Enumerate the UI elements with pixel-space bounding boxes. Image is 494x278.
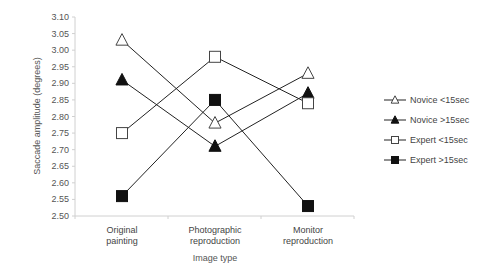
y-tick-label: 3.00 bbox=[51, 45, 69, 55]
x-category-label: Monitor bbox=[293, 225, 323, 235]
filled-triangle-marker bbox=[209, 140, 221, 152]
filled-triangle-marker bbox=[302, 87, 314, 99]
open-square-marker bbox=[210, 51, 221, 62]
y-tick-label: 2.90 bbox=[51, 78, 69, 88]
legend-item: Novice <15sec bbox=[384, 95, 470, 105]
filled-square-marker bbox=[392, 157, 399, 164]
y-tick-label: 2.75 bbox=[51, 128, 69, 138]
legend-item: Expert >15sec bbox=[384, 155, 468, 165]
x-category-label: painting bbox=[106, 236, 138, 246]
y-tick-label: 2.55 bbox=[51, 194, 69, 204]
x-category-label: Photographic bbox=[188, 225, 242, 235]
y-axis: 3.103.053.002.952.902.852.802.752.702.65… bbox=[51, 12, 75, 221]
filled-square-marker bbox=[117, 191, 128, 202]
x-axis-title: Image type bbox=[193, 253, 238, 263]
open-triangle-marker bbox=[391, 96, 399, 103]
legend-label: Expert >15sec bbox=[410, 155, 468, 165]
y-tick-label: 2.50 bbox=[51, 211, 69, 221]
y-tick-label: 2.65 bbox=[51, 161, 69, 171]
series-markers bbox=[117, 94, 314, 211]
x-category-label: reproduction bbox=[190, 236, 240, 246]
series-novice-15sec bbox=[122, 80, 308, 146]
y-tick-label: 2.70 bbox=[51, 145, 69, 155]
y-tick-label: 2.60 bbox=[51, 178, 69, 188]
open-square-marker bbox=[392, 137, 399, 144]
open-triangle-marker bbox=[116, 34, 128, 46]
series-markers bbox=[116, 73, 314, 151]
legend-label: Novice <15sec bbox=[410, 95, 470, 105]
legend-label: Expert <15sec bbox=[410, 135, 468, 145]
y-tick-label: 2.80 bbox=[51, 112, 69, 122]
legend: Novice <15secNovice >15secExpert <15secE… bbox=[384, 95, 470, 165]
filled-triangle-marker bbox=[391, 116, 399, 123]
filled-triangle-marker bbox=[116, 73, 128, 85]
open-triangle-marker bbox=[209, 117, 221, 129]
open-square-marker bbox=[303, 98, 314, 109]
y-tick-label: 2.95 bbox=[51, 62, 69, 72]
y-axis-title: Saccade amplitude (degrees) bbox=[32, 57, 42, 175]
x-category-label: reproduction bbox=[283, 236, 333, 246]
legend-item: Novice >15sec bbox=[384, 115, 470, 125]
y-tick-label: 3.10 bbox=[51, 12, 69, 22]
series-layer bbox=[116, 34, 314, 212]
filled-square-marker bbox=[210, 94, 221, 105]
open-triangle-marker bbox=[302, 67, 314, 79]
legend-label: Novice >15sec bbox=[410, 115, 470, 125]
filled-square-marker bbox=[303, 201, 314, 212]
x-axis: OriginalpaintingPhotographicreproduction… bbox=[75, 216, 354, 246]
line-chart: 3.103.053.002.952.902.852.802.752.702.65… bbox=[0, 0, 494, 278]
legend-item: Expert <15sec bbox=[384, 135, 468, 145]
open-square-marker bbox=[117, 128, 128, 139]
y-tick-label: 2.85 bbox=[51, 95, 69, 105]
y-tick-label: 3.05 bbox=[51, 29, 69, 39]
x-category-label: Original bbox=[106, 225, 137, 235]
